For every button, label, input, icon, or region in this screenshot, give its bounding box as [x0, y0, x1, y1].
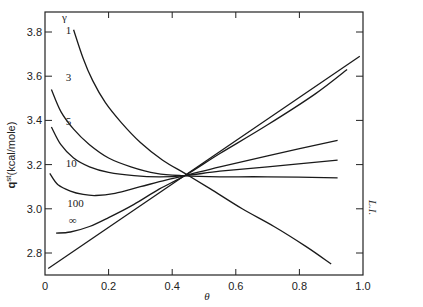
curve-label-gamma: 5 [66, 115, 72, 127]
axis-ticks: 00.20.40.60.81.02.83.03.23.43.63.8 [27, 12, 371, 292]
curve-label-gamma: 100 [67, 197, 84, 209]
y-tick-label: 3.6 [27, 70, 42, 82]
x-tick-label: 0.6 [228, 280, 243, 292]
x-tick-label: 0.2 [101, 280, 116, 292]
plot-frame [45, 12, 363, 275]
curve-gamma-1 [74, 30, 332, 264]
y-tick-label: 3.0 [27, 203, 42, 215]
x-tick-label: 1.0 [355, 280, 370, 292]
y-tick-label: 3.8 [27, 26, 42, 38]
y-tick-label: 3.2 [27, 159, 42, 171]
curve-label-gamma: 3 [66, 71, 72, 83]
curve-label-gamma: 1 [66, 24, 72, 36]
y-axis-label-main: q [5, 182, 17, 189]
plot-border [45, 12, 363, 275]
legend-title: γ [61, 11, 67, 23]
side-note: L.I. [367, 200, 379, 215]
x-tick-label: 0 [42, 280, 48, 292]
y-tick-label: 3.4 [27, 114, 42, 126]
y-axis-label: qst(kcal/mole) [4, 122, 17, 189]
curve-label-gamma: ∞ [69, 214, 77, 226]
x-axis-label: θ [204, 290, 210, 302]
x-tick-label: 0.4 [165, 280, 180, 292]
y-axis-label-unit: (kcal/mole) [5, 122, 17, 176]
x-tick-label: 0.8 [292, 280, 307, 292]
curve-label-gamma: 10 [66, 157, 78, 169]
y-tick-label: 2.8 [27, 247, 42, 259]
chart: 00.20.40.60.81.02.83.03.23.43.63.8 13510… [0, 0, 423, 307]
svg-text:qst(kcal/mole): qst(kcal/mole) [4, 122, 17, 189]
curves [48, 30, 360, 269]
